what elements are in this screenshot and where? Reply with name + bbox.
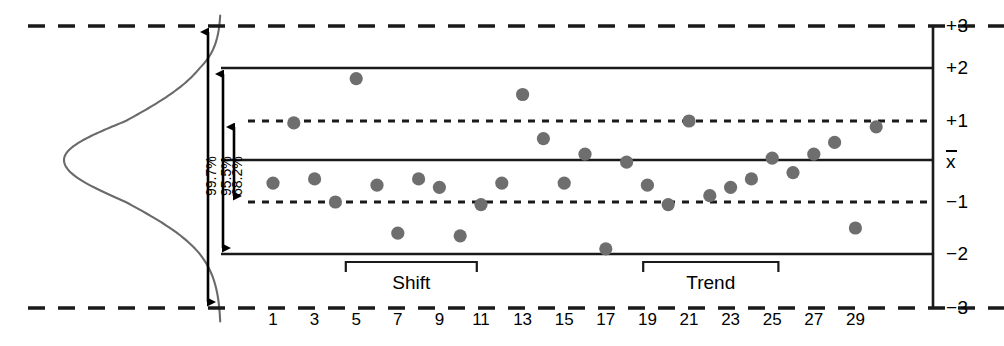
control-chart-canvas [0,0,1004,346]
y-axis-tick-label: x [946,150,956,171]
data-point [433,181,446,194]
x-axis-tick-label: 11 [472,310,490,330]
data-point [703,189,716,202]
x-axis-tick-label: 21 [680,310,699,330]
data-point [412,172,425,185]
data-point [516,88,529,101]
data-point [828,136,841,149]
y-axis-tick-label: −2 [946,244,969,263]
data-point [766,151,779,164]
pattern-brackets [346,262,779,272]
data-point [807,148,820,161]
data-point [849,221,862,234]
x-axis-tick-label: 1 [268,310,277,330]
sigma-percent-label: 99.7% [203,156,219,196]
y-axis-tick-label: +1 [946,111,969,130]
x-axis-tick-label: 23 [721,310,740,330]
data-point [308,172,321,185]
x-axis-tick-label: 15 [555,310,574,330]
x-axis-tick-label: 27 [804,310,823,330]
data-point [454,229,467,242]
reference-lines [28,26,1004,308]
data-point [641,179,654,192]
bracket-trend [643,262,778,272]
y-axis-tick-label: −3 [946,298,969,317]
data-point [786,166,799,179]
x-axis-tick-label: 9 [435,310,444,330]
data-point [724,181,737,194]
data-point [391,227,404,240]
overbar [946,150,957,152]
data-point [495,177,508,190]
x-axis-tick-label: 7 [393,310,402,330]
data-point [350,72,363,85]
x-bar-glyph: x [946,150,956,171]
data-point-layer [266,72,882,255]
x-axis-tick-label: 17 [596,310,615,330]
x-axis-tick-label: 19 [638,310,657,330]
y-axis-tick-label: +2 [946,58,969,77]
sigma-percent-label: 68.2% [229,156,245,196]
bracket-shift [346,262,477,272]
data-point [266,177,279,190]
data-point [474,198,487,211]
data-point [558,177,571,190]
data-point [370,179,383,192]
data-point [599,242,612,255]
data-point [578,148,591,161]
data-point [662,198,675,211]
data-point [745,172,758,185]
pattern-caption: Shift [392,272,430,294]
x-axis-tick-label: 25 [763,310,782,330]
data-point [537,132,550,145]
data-point [329,195,342,208]
data-point [682,114,695,127]
data-point [870,120,883,133]
control-chart-figure: +3+2+1x−1−2−3 1357911131517192123252729 … [0,0,1004,346]
x-axis-tick-label: 29 [846,310,865,330]
data-point [620,156,633,169]
x-axis-tick-label: 13 [513,310,532,330]
x-axis-tick-label: 5 [351,310,360,330]
pattern-caption: Trend [686,272,735,294]
data-point [287,116,300,129]
x-axis-tick-label: 3 [310,310,319,330]
y-axis-tick-label: +3 [946,16,969,35]
y-axis-tick-label: −1 [946,192,969,211]
normal-distribution-curve [64,16,220,322]
